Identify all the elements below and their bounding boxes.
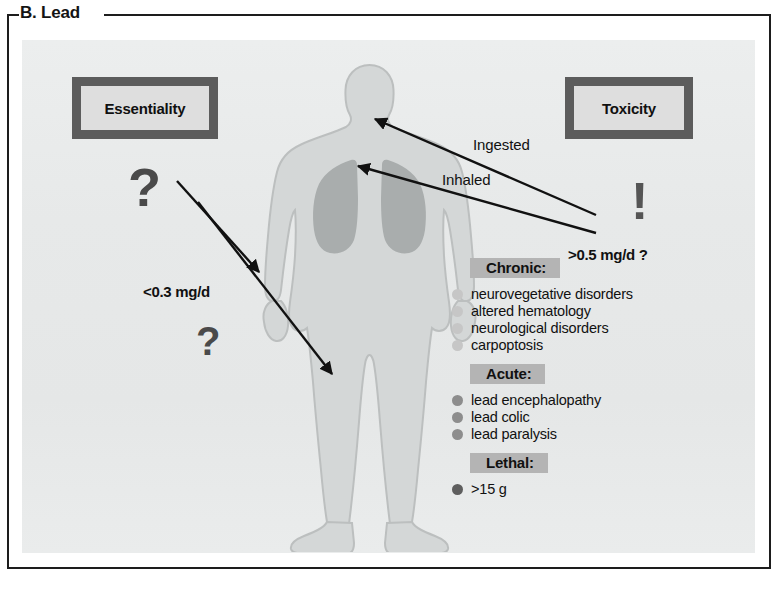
- frame-left-border: [7, 14, 9, 569]
- list-item: >15 g: [452, 481, 702, 497]
- effect-label: carpoptosis: [471, 337, 543, 353]
- question-mark-bottom: ?: [196, 321, 220, 361]
- toxicity-box: Toxicity: [565, 77, 693, 139]
- essentiality-box: Essentiality: [72, 77, 218, 139]
- chronic-heading: Chronic:: [470, 258, 560, 278]
- list-item: lead colic: [452, 409, 702, 425]
- essential-dose-label: <0.3 mg/d: [143, 283, 210, 300]
- section-heading-wrap-2: Lethal:: [470, 453, 702, 473]
- effect-label: lead colic: [471, 409, 529, 425]
- bullet-icon: [452, 306, 463, 317]
- frame-top-left-border: [7, 14, 19, 16]
- effect-label: lead paralysis: [471, 426, 557, 442]
- frame-bottom-border: [7, 567, 771, 569]
- frame-top-right-border: [104, 14, 771, 16]
- bullet-icon: [452, 429, 463, 440]
- figure-panel-b-lead: B. Lead Essentiality Toxicity ?: [0, 0, 779, 590]
- list-item: neurological disorders: [452, 320, 702, 336]
- exclamation-mark: !: [631, 175, 648, 227]
- section-heading-wrap-0: Chronic:: [470, 258, 702, 278]
- section-heading-wrap-1: Acute:: [470, 364, 702, 384]
- bullet-icon: [452, 323, 463, 334]
- panel-title: B. Lead: [20, 3, 80, 23]
- bullet-icon: [452, 412, 463, 423]
- ingested-label: Ingested: [473, 136, 530, 153]
- effects-legend: Chronic: neurovegetative disorders alter…: [452, 258, 702, 497]
- lethal-heading: Lethal:: [470, 453, 548, 473]
- left-foot-path: [291, 522, 354, 552]
- effect-label: lead encephalopathy: [471, 392, 601, 408]
- bullet-icon: [452, 395, 463, 406]
- toxicity-label: Toxicity: [574, 86, 684, 130]
- list-item: lead encephalopathy: [452, 392, 702, 408]
- inhaled-label: Inhaled: [442, 171, 491, 188]
- bullet-icon: [452, 484, 463, 495]
- list-item: neurovegetative disorders: [452, 286, 702, 302]
- effect-label: >15 g: [471, 481, 507, 497]
- acute-heading: Acute:: [470, 364, 545, 384]
- essentiality-label: Essentiality: [81, 86, 209, 130]
- question-mark-top: ?: [128, 160, 161, 214]
- effect-label: neurovegetative disorders: [471, 286, 633, 302]
- bullet-icon: [452, 340, 463, 351]
- effect-label: altered hematology: [471, 303, 591, 319]
- body-outline-path: [265, 65, 474, 534]
- effect-label: neurological disorders: [471, 320, 608, 336]
- bullet-icon: [452, 289, 463, 300]
- list-item: lead paralysis: [452, 426, 702, 442]
- body-silhouette: [263, 65, 475, 552]
- human-body-figure: [262, 60, 477, 552]
- list-item: carpoptosis: [452, 337, 702, 353]
- right-foot-path: [385, 522, 448, 552]
- left-hand-path: [263, 301, 288, 341]
- list-item: altered hematology: [452, 303, 702, 319]
- frame-right-border: [769, 14, 771, 569]
